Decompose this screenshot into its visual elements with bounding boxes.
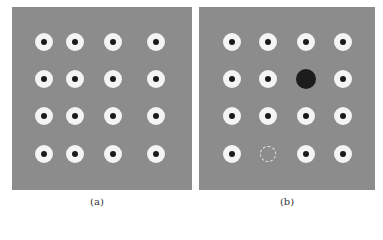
marker-dot	[104, 107, 122, 125]
caption-a: (a)	[90, 196, 104, 207]
marker-dot	[297, 107, 315, 125]
marker-dot	[259, 70, 277, 88]
marker-dot	[259, 107, 277, 125]
marker-dot	[334, 33, 352, 51]
marker-dot	[223, 33, 241, 51]
marker-dot	[334, 70, 352, 88]
marker-dot	[259, 33, 277, 51]
marker-dot	[66, 145, 84, 163]
marker-dot	[223, 107, 241, 125]
marker-dot	[334, 145, 352, 163]
marker-dot	[297, 33, 315, 51]
marker-dot	[35, 145, 53, 163]
marker-dot	[104, 33, 122, 51]
marker-dot	[35, 107, 53, 125]
marker-dot	[147, 107, 165, 125]
marker-dot	[147, 145, 165, 163]
marker-dot	[147, 70, 165, 88]
marker-dot	[223, 70, 241, 88]
marker-dot	[35, 33, 53, 51]
marker-dot	[223, 145, 241, 163]
enlarged-marker	[296, 69, 316, 89]
marker-dot	[66, 107, 84, 125]
marker-dot	[334, 107, 352, 125]
marker-dot	[66, 33, 84, 51]
marker-dot	[147, 33, 165, 51]
marker-dot	[104, 145, 122, 163]
missing-marker	[260, 146, 276, 162]
marker-dot	[66, 70, 84, 88]
marker-dot	[104, 70, 122, 88]
marker-dot	[297, 145, 315, 163]
caption-b: (b)	[280, 196, 294, 207]
marker-dot	[35, 70, 53, 88]
